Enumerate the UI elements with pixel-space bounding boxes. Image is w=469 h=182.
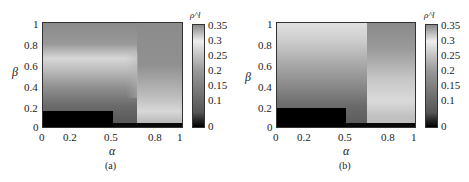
xtick: 0.5 <box>104 132 118 143</box>
panel-a: 1 0.8 0.6 0.4 0.2 0 β 0 0.2 0.5 0.8 1 α … <box>0 0 234 182</box>
cb-tick: 0.25 <box>208 50 227 61</box>
colorbar <box>425 24 438 128</box>
xtick: 0.8 <box>381 132 395 143</box>
ytick: 0.8 <box>24 40 38 51</box>
panel-caption: (a) <box>105 160 116 171</box>
ytick: 0.6 <box>24 61 38 72</box>
ytick: 0 <box>267 122 273 133</box>
black-strip <box>346 123 415 127</box>
ytick: 0 <box>33 122 39 133</box>
heatmap-a <box>42 22 183 128</box>
xtick: 0.8 <box>148 132 162 143</box>
ytick: 0.2 <box>258 103 272 114</box>
black-strip <box>113 123 183 127</box>
ytick: 0.2 <box>24 103 38 114</box>
cb-tick: 0 <box>208 121 214 132</box>
colorbar-label: ρ^l <box>424 10 435 20</box>
cb-tick: 0.15 <box>441 80 460 91</box>
cb-tick: 0.3 <box>441 35 455 46</box>
panel-caption: (b) <box>339 160 351 171</box>
panel-b: 1 0.8 0.6 0.4 0.2 0 β 0 0.2 0.5 0.8 1 α … <box>230 0 464 182</box>
xtick: 0.5 <box>338 132 352 143</box>
heatmap-b <box>276 22 416 128</box>
y-axis-label: β <box>12 65 18 80</box>
cb-tick: 0 <box>441 121 447 132</box>
black-region <box>277 108 346 127</box>
y-axis-label: β <box>245 70 251 85</box>
xtick: 1 <box>411 132 417 143</box>
x-axis-label: α <box>343 144 349 159</box>
cb-tick: 0.15 <box>208 80 227 91</box>
x-axis-label: α <box>109 144 115 159</box>
colorbar-label: ρ^l <box>190 10 201 20</box>
cb-tick: 0.2 <box>208 65 222 76</box>
cb-tick: 0.2 <box>441 65 455 76</box>
xtick: 1 <box>177 132 183 143</box>
cb-tick: 0.1 <box>441 95 455 106</box>
ytick: 0.4 <box>258 82 272 93</box>
black-region <box>43 111 113 127</box>
cb-tick: 0.25 <box>441 50 460 61</box>
xtick: 0.2 <box>63 132 77 143</box>
ytick: 0.6 <box>258 61 272 72</box>
cb-tick: 0.35 <box>441 20 460 31</box>
ytick: 1 <box>33 19 39 30</box>
cb-tick: 0.1 <box>208 95 222 106</box>
xtick: 0 <box>273 132 279 143</box>
xtick: 0 <box>39 132 45 143</box>
ytick: 1 <box>267 19 273 30</box>
xtick: 0.2 <box>297 132 311 143</box>
cb-tick: 0.35 <box>208 20 227 31</box>
cb-tick: 0.3 <box>208 35 222 46</box>
ytick: 0.8 <box>258 40 272 51</box>
colorbar <box>192 24 205 128</box>
ytick: 0.4 <box>24 82 38 93</box>
